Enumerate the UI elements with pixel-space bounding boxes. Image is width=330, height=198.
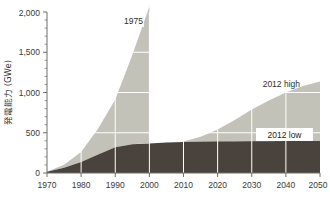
x-tick-label-1980: 1980	[72, 180, 91, 190]
annotation-1975-label: 1975	[124, 16, 143, 26]
x-tick-label-1990: 1990	[106, 180, 125, 190]
annotation-2012-high-label: 2012 high	[263, 79, 301, 89]
annotation-2012-low-label: 2012 low	[267, 130, 302, 140]
y-tick-label-2000: 2,000	[19, 8, 41, 18]
y-tick-label-1500: 1,500	[19, 47, 41, 57]
y-tick-label-1000: 1,000	[19, 88, 41, 98]
x-tick-label-2040: 2040	[276, 180, 295, 190]
annotation-2012-high: 2012 high	[263, 79, 301, 89]
annotation-1975: 1975	[117, 15, 144, 27]
nuclear-capacity-area-chart: 0 500 1,000 1,500 2,000 1970 1980 1990 2…	[0, 0, 330, 198]
y-axis-title: 発電能力 (GWe)	[3, 60, 13, 125]
x-tick-label-2030: 2030	[242, 180, 261, 190]
y-tick-label-500: 500	[26, 128, 40, 138]
x-tick-labels: 1970 1980 1990 2000 2010 2020 2030 2040 …	[38, 180, 328, 190]
annotation-2012-low: 2012 low	[256, 128, 313, 141]
x-tick-label-2050: 2050	[309, 180, 328, 190]
x-tick-label-2020: 2020	[208, 180, 227, 190]
x-tick-label-2010: 2010	[174, 180, 193, 190]
y-tick-label-0: 0	[35, 168, 40, 178]
x-tick-label-1970: 1970	[38, 180, 57, 190]
chart-figure: 0 500 1,000 1,500 2,000 1970 1980 1990 2…	[0, 0, 330, 198]
plot-area	[43, 7, 320, 178]
x-tick-label-2000: 2000	[140, 180, 159, 190]
